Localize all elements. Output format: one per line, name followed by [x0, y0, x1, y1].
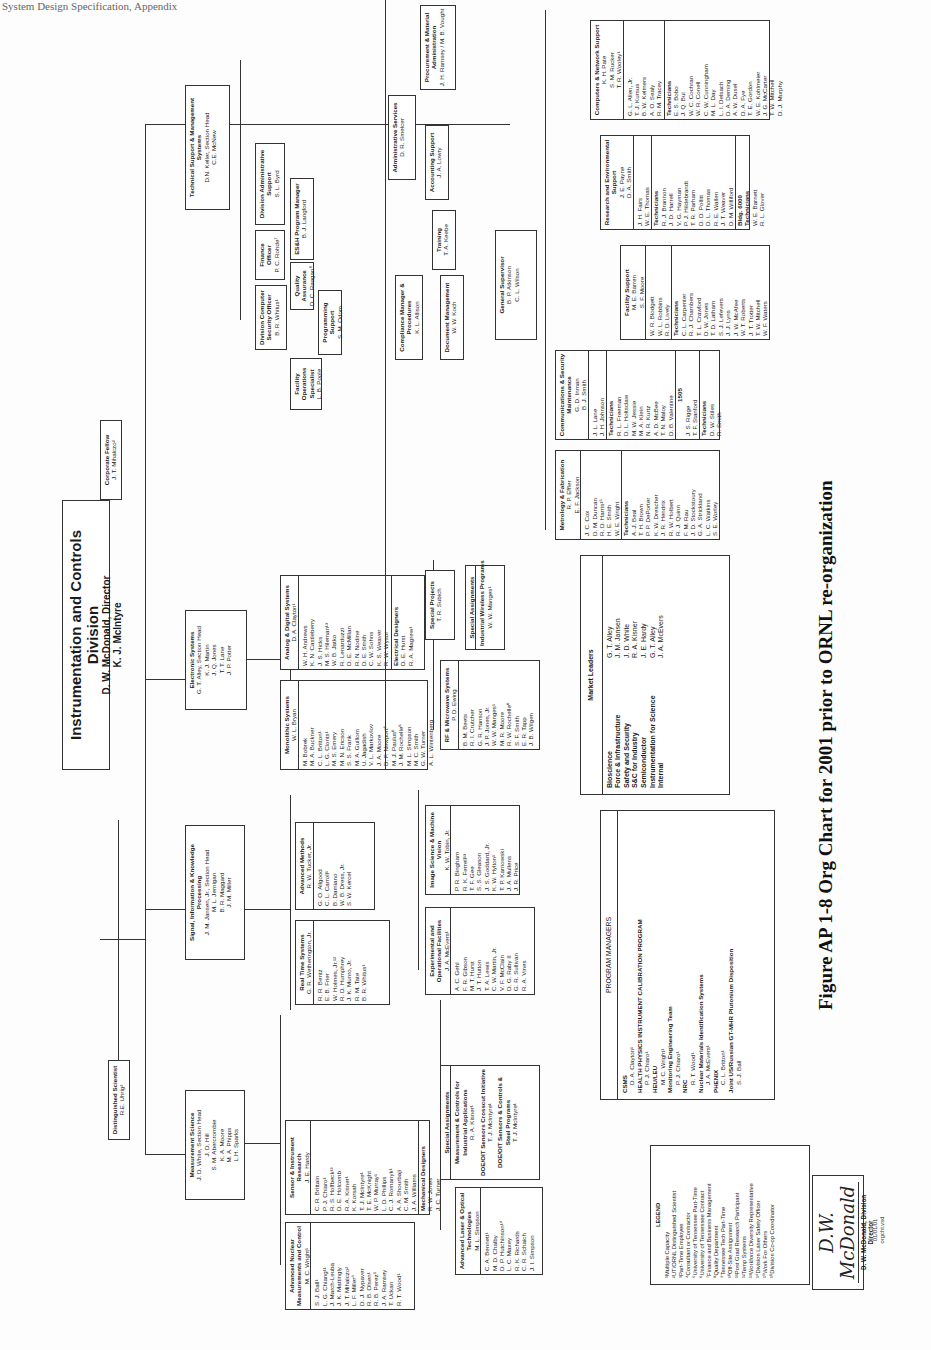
box-title: Corporate Fellow [101, 421, 110, 499]
member: B. Damiano [331, 826, 338, 906]
legend-item: ²UT/ORNL Distinguished Scientist [671, 1152, 678, 1278]
member: V. L. Markovlov [367, 684, 374, 766]
unit-title: Procurement & Material Administration [421, 6, 438, 89]
connector [385, 0, 386, 770]
section-line: D.N. Keller, Section Head [203, 86, 210, 209]
member: W. F. Waters [761, 249, 768, 336]
program-name: CSMS [621, 817, 629, 1093]
member-list: J. C. Cox D. M. Duncan R. D. Harris¹⁵ H.… [580, 451, 720, 539]
connector [145, 909, 185, 910]
market-leaders-table: Bioscience Force & Infrastructure Safety… [603, 556, 669, 794]
legend-item: ¹⁵Work For Others [762, 1152, 769, 1278]
legend-item: ³Part-Time Employee [678, 1152, 685, 1278]
section-line: J. Q. Jones [210, 611, 217, 709]
unit-name: D. C. Reagan⁸ [308, 263, 315, 309]
unit-esh-program-manager: ES&H Program Manager B. J. Langford [290, 178, 314, 260]
member: J. T. Mihalczo² [343, 1226, 350, 1306]
group-special-assignments-ms: Special Assignments Measurement & Contro… [440, 1065, 540, 1180]
member: R. J. Chambers [687, 249, 694, 336]
member: K. W. Drescher [652, 454, 659, 536]
member-list: A. C. Gehl F. R. Gibson M. T. Hurst J. T… [450, 908, 529, 994]
member: D. M. Williford [727, 139, 734, 226]
member: R. M. Tracey [655, 24, 662, 116]
member: J. M. Rochelle⁶ [397, 684, 404, 766]
assignment-program: Measurement & Controls for Industrial Ap… [453, 1069, 468, 1176]
group-metrology-fabrication: Metrology & Fabrication R. P. Effler E. … [555, 450, 720, 540]
member: J. J. Lyns [724, 249, 731, 336]
group-leader: R. W. Tucker, Jr. [305, 823, 312, 909]
member: M. W. Jessie [630, 354, 637, 436]
member: J. A. Moore [375, 684, 382, 766]
group-leader: D. A. Smith [625, 136, 632, 229]
group-title: Special Projects [426, 571, 435, 639]
group-leader: B. J. Smith [580, 351, 587, 439]
division-director: D. W. McDonald, Director [101, 501, 112, 769]
unit-title: Division Computer Security Officer [256, 286, 273, 349]
member: J. March-Leuba [328, 1226, 335, 1306]
legend-item: ¹⁶Division Co-op Coordinator [769, 1152, 776, 1278]
group-title: Advanced Laser & Optical Technologies [456, 1188, 473, 1274]
member: T. F. Gee [468, 809, 475, 891]
member: M. A. Buckner [308, 684, 315, 766]
member: R. K. Ferrell¹³ [461, 809, 468, 891]
corporate-fellow-box: Corporate Fellow J. T. Mihalczo² [100, 420, 122, 500]
member: L. G. Clonts¹ [323, 684, 330, 766]
member: P. J. Hildebrandt [682, 139, 689, 226]
member: R. Smith [715, 354, 722, 436]
unit-name: B. P. Atkinson [505, 231, 512, 339]
member: M. A. Klein [637, 354, 644, 436]
legend-item: ¹³Workforce Diversity Representative [748, 1152, 755, 1278]
group-leader: J. A. McEvers¹ [443, 908, 450, 994]
section-technical-support: Technical Support & Management Systems D… [185, 85, 230, 210]
unit-accounting-support: Accounting Support J. A. Lowry [425, 125, 449, 200]
member: J. S. Goddard, Jr. [483, 809, 490, 891]
member: M. C. Smith [412, 684, 419, 766]
subsection-label: Bldg. 6000 [735, 136, 743, 229]
member: M. L. Simpson [405, 684, 412, 766]
member: D. L. Holtsclaw [622, 354, 629, 436]
member: R. D. Humphrey [338, 924, 345, 1001]
program-name: HEU/LEU [651, 817, 659, 1093]
section-line: G. T. Alley, Section Head [195, 611, 202, 709]
group-leader: G. D. Inman [573, 351, 580, 439]
member: D. W. Jones [702, 249, 709, 336]
group-facility-support: Facility Support M. E. Barren S. F. Moor… [620, 245, 770, 340]
unit-name: L. B. Poole [315, 359, 322, 409]
connector [245, 909, 290, 910]
group-advanced-methods: Advanced Methods R. W. Tucker, Jr. G. O.… [295, 822, 375, 910]
group-research-environmental: Research and Environmental Support J. E.… [600, 135, 750, 230]
market-name: Force & Infrastructure [614, 658, 623, 788]
member: S. J. Lefevers [717, 249, 724, 336]
member: D. J. Murphy [776, 24, 783, 116]
member: R. N. Nodine [353, 579, 360, 666]
section-line: J. P. Potter [225, 611, 232, 709]
member: M. L. Day [709, 24, 716, 116]
unit-finance-officer: Finance Officer P. C. Rohde⁷ [255, 230, 285, 280]
section-line: K. J. Martin [203, 611, 210, 709]
group-title: Sensor & Instrument Research [286, 1121, 303, 1214]
member: D. L. Thomas [704, 139, 711, 226]
member: L. I. Delsach [717, 24, 724, 116]
member: T. W. Mitchell [768, 24, 775, 116]
unit-name: W. W. Koch [450, 276, 457, 359]
member: R. R. Bentz [316, 924, 323, 1001]
member: R. A. Vines [520, 911, 527, 991]
legend-title: LEGEND [655, 1152, 662, 1278]
connector [145, 679, 185, 680]
unit-title: General Supervisor [496, 231, 505, 339]
figure-caption: Figure AP 1-8 Org Chart for 2001 prior t… [815, 481, 837, 1011]
connector [145, 125, 146, 1155]
member: W. R. Conell [694, 24, 701, 116]
member: R. I. Crutcher [468, 664, 475, 746]
member: G. R. Sullivan [512, 911, 519, 991]
legend-item: ¹Multiple Capacity [664, 1152, 671, 1278]
member: W. W. Manges¹ [490, 664, 497, 746]
legend-item: ¹²Temp Systems [741, 1152, 748, 1278]
member: D. A. Deming [724, 24, 731, 116]
member: J. H. Johnson [598, 354, 605, 436]
division-deputy: K. J. McIntyre [112, 501, 123, 769]
group-communications-security: Communications & Security Maintenance G.… [555, 350, 720, 440]
member: W. L. Robbins [656, 249, 663, 336]
document-file: orgcht.vsd [879, 1200, 886, 1260]
member: D. P. Hutchinson¹⁴ [498, 1191, 505, 1271]
